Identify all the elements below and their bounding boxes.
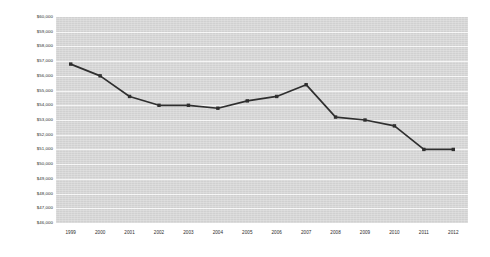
x-axis-tick-label: 2002 [154,231,164,236]
data-point-marker [393,124,396,127]
data-point-marker [304,83,307,86]
x-axis-tick-label: 2007 [301,231,311,236]
data-point-marker [422,148,425,151]
y-axis-tick-label: $48,000 [37,191,53,195]
data-point-marker [334,115,337,118]
y-axis-tick-label: $56,000 [37,74,53,78]
y-axis-tick-label: $58,000 [37,44,53,48]
y-axis-tick-label: $59,000 [37,30,53,34]
y-axis-tick-label: $52,000 [37,133,53,137]
x-axis-tick-label: 2009 [360,231,370,236]
data-series-layer [56,17,468,223]
x-axis-tick-label: 1999 [65,231,75,236]
x-axis-tick-label: 2001 [124,231,134,236]
y-axis-tick-label: $46,000 [37,221,53,225]
data-point-marker [216,107,219,110]
y-axis-tick-label: $51,000 [37,147,53,151]
y-axis-tick-label: $55,000 [37,88,53,92]
y-axis-tick-labels: $60,000$59,000$58,000$57,000$56,000$55,0… [0,0,53,257]
data-point-marker [98,74,101,77]
data-point-marker [157,104,160,107]
data-point-marker [246,99,249,102]
x-axis-tick-label: 2005 [242,231,252,236]
x-axis-tick-label: 2010 [389,231,399,236]
y-axis-tick-label: $50,000 [37,162,53,166]
data-point-marker [128,95,131,98]
x-axis-tick-label: 2003 [183,231,193,236]
y-axis-tick-label: $54,000 [37,103,53,107]
y-axis-tick-label: $60,000 [37,15,53,19]
x-axis-tick-label: 2008 [330,231,340,236]
series-line [71,64,454,149]
plot-area [56,17,468,223]
y-axis-tick-label: $53,000 [37,118,53,122]
y-axis-tick-label: $49,000 [37,177,53,181]
y-axis-tick-label: $57,000 [37,59,53,63]
data-point-marker [69,62,72,65]
x-axis-tick-label: 2004 [213,231,223,236]
x-axis-tick-label: 2012 [448,231,458,236]
series-markers [69,62,455,151]
data-point-marker [452,148,455,151]
data-point-marker [275,95,278,98]
x-axis-tick-label: 2000 [95,231,105,236]
line-chart: $60,000$59,000$58,000$57,000$56,000$55,0… [0,0,490,257]
x-axis-tick-label: 2011 [419,231,429,236]
x-axis-tick-label: 2006 [271,231,281,236]
data-point-marker [363,118,366,121]
y-axis-tick-label: $47,000 [37,206,53,210]
data-point-marker [187,104,190,107]
